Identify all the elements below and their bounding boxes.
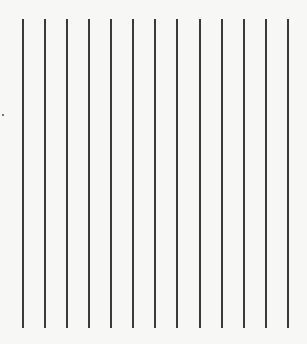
vertical-rule-line	[88, 19, 90, 328]
vertical-rule-line	[176, 19, 178, 328]
vertical-rule-line	[154, 19, 156, 328]
vertical-rule-line	[22, 19, 24, 328]
vertical-rule-line	[110, 19, 112, 328]
vertical-rule-line	[265, 19, 267, 328]
vertical-rule-line	[243, 19, 245, 328]
vertical-rule-line	[66, 19, 68, 328]
scan-speck	[2, 114, 4, 116]
vertical-rule-line	[44, 19, 46, 328]
vertical-rule-line	[199, 19, 201, 328]
vertical-rule-line	[287, 19, 289, 328]
vertical-rule-line	[132, 19, 134, 328]
ruled-page	[0, 0, 307, 344]
vertical-rule-line	[221, 19, 223, 328]
